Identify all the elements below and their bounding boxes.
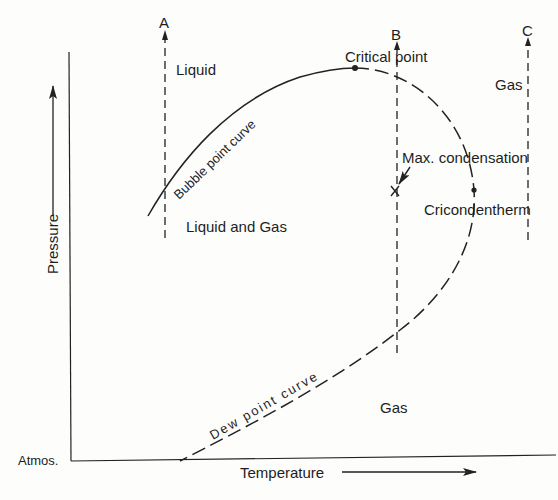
region-gas-lower-label: Gas: [380, 399, 408, 416]
x-axis: [71, 455, 556, 461]
max-condensation-arrow-icon: [399, 167, 410, 184]
isotherm-a: A: [159, 14, 169, 238]
critical-point-dot: [352, 65, 358, 71]
pressure-axis-label: Pressure: [44, 214, 61, 274]
isotherm-a-label: A: [159, 14, 169, 31]
cricondentherm-dot: [471, 187, 476, 192]
isotherm-b-label: B: [391, 26, 401, 43]
critical-point-label: Critical point: [345, 48, 428, 65]
region-gas-upper-label: Gas: [495, 76, 523, 93]
x-mark-icon: [391, 186, 399, 196]
phase-diagram: Pressure Temperature Atmos. A B C Critic…: [0, 0, 558, 500]
temperature-axis-label: Temperature: [240, 464, 324, 481]
max-condensation-label: Max. condensation: [402, 149, 528, 166]
max-condensation-marker: Max. condensation: [391, 149, 528, 196]
atmos-label: Atmos.: [18, 453, 58, 468]
isotherm-a-arrow-icon: [162, 30, 168, 40]
isotherm-c-label: C: [522, 22, 533, 39]
region-liquid-label: Liquid: [176, 61, 216, 78]
temperature-axis-label-group: Temperature: [240, 464, 476, 481]
dew-point-curve-label: Dew point curve: [207, 368, 321, 443]
pressure-axis-label-group: Pressure: [44, 86, 61, 274]
y-axis: [69, 52, 71, 461]
cricondentherm-label: Cricondentherm: [424, 201, 531, 218]
region-liquid-and-gas-label: Liquid and Gas: [186, 218, 287, 235]
dew-point-curve: [180, 68, 474, 461]
